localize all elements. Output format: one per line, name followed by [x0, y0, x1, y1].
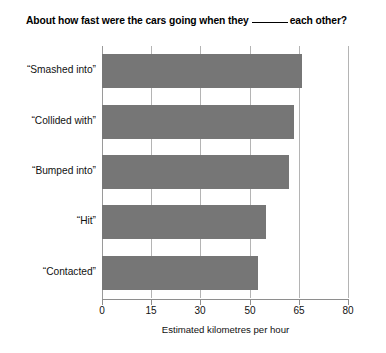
chart-title: About how fast were the cars going when … — [26, 14, 376, 27]
category-label: “Hit” — [4, 215, 96, 226]
x-axis-title: Estimated kilometres per hour — [102, 324, 349, 335]
x-axis-tick-label: 80 — [342, 305, 353, 316]
x-axis-tick-label: 65 — [293, 305, 304, 316]
x-axis-tick-label: 0 — [99, 305, 105, 316]
category-label: “Smashed into” — [4, 64, 96, 75]
x-axis-line — [102, 299, 349, 300]
category-label: “Bumped into” — [4, 165, 96, 176]
gridline — [348, 46, 349, 298]
bar-row — [102, 105, 348, 139]
bar — [102, 256, 258, 290]
bar-chart-figure: About how fast were the cars going when … — [0, 0, 386, 353]
title-blank-rule — [252, 22, 288, 23]
plot-area — [102, 46, 348, 298]
bar — [102, 105, 294, 139]
bar — [102, 54, 302, 88]
bar-row — [102, 205, 348, 239]
category-axis-labels: “Smashed into”“Collided with”“Bumped int… — [0, 46, 96, 298]
category-label: “Collided with” — [4, 115, 96, 126]
x-axis-tick-label: 15 — [145, 305, 156, 316]
category-label: “Contacted” — [4, 266, 96, 277]
bar — [102, 205, 266, 239]
bar-row — [102, 155, 348, 189]
bar-row — [102, 256, 348, 290]
chart-title-suffix: each other? — [290, 15, 347, 26]
bar — [102, 155, 289, 189]
x-axis-tick-label: 30 — [194, 305, 205, 316]
chart-title-prefix: About how fast were the cars going when … — [26, 15, 249, 26]
bar-row — [102, 54, 348, 88]
x-axis-tick-label: 50 — [244, 305, 255, 316]
